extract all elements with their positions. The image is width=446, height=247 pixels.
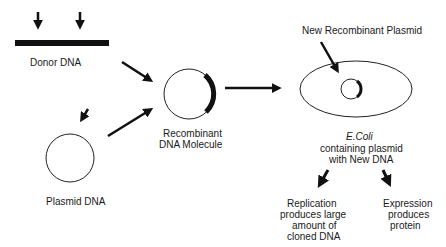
expression-label-line1: Expression <box>383 198 432 209</box>
plasmid-circle <box>46 134 94 182</box>
replication-label-line3: amount of <box>292 220 336 231</box>
replication-label-line2: produces large <box>280 209 346 220</box>
e-coli-outline <box>300 61 412 117</box>
recombinant-label-line2: DNA Molecule <box>159 139 222 150</box>
arrow-icon <box>383 170 389 183</box>
ecoli-label-line2: containing plasmid <box>320 143 403 154</box>
donor-dna-bar <box>15 40 109 46</box>
donor-dna-label: Donor DNA <box>30 57 81 68</box>
replication-label-line4: cloned DNA <box>287 231 340 242</box>
replication-label-line1: Replication <box>287 198 336 209</box>
arrow-icon <box>108 110 150 136</box>
plasmid-dna-label: Plasmid DNA <box>46 196 105 207</box>
plasmid-insert-segment <box>357 81 361 97</box>
cut-arrow-icon <box>82 109 88 119</box>
arrow-icon <box>122 62 150 80</box>
new-recombinant-plasmid-label: New Recombinant Plasmid <box>302 25 422 36</box>
ecoli-name-label: E.Coli <box>346 131 373 142</box>
diagram-canvas <box>0 0 446 247</box>
expression-label-line2: produces <box>388 209 429 220</box>
arrow-icon <box>320 170 328 184</box>
expression-label-line3: protein <box>390 220 421 231</box>
recombinant-label-line1: Recombinant <box>163 128 222 139</box>
ecoli-label-line3: with New DNA <box>329 154 393 165</box>
inserted-dna-segment <box>205 75 214 112</box>
